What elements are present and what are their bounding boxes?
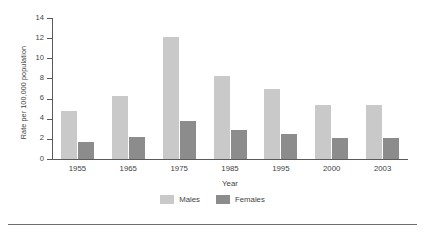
y-axis-title: Rate per 100,000 population [19,18,28,168]
footer-divider [8,224,417,225]
bar-females-1995 [281,134,297,159]
y-axis-tick-label: 12 [36,33,44,42]
bar-males-1965 [112,96,128,159]
y-axis-tick: 8 [47,78,52,79]
y-axis-tick: 10 [47,58,52,59]
x-axis-tick-label: 1965 [120,164,137,173]
x-axis-tick-label: 2000 [323,164,340,173]
y-axis-tick: 14 [47,18,52,19]
bar-group [264,18,297,159]
bar-group [163,18,196,159]
bar-females-1965 [129,137,145,159]
plot-area: 024681012141955196519751985199520002003 [52,18,408,159]
bar-group [61,18,94,159]
bar-group [315,18,348,159]
bar-males-1985 [214,76,230,159]
y-axis-tick-label: 14 [36,13,44,22]
bar-males-2000 [315,105,331,159]
legend-swatch-icon [160,195,174,204]
y-axis-tick: 2 [47,139,52,140]
legend-swatch-icon [216,195,230,204]
bar-males-1955 [61,111,77,159]
x-axis-line [52,159,408,160]
x-axis-tick-label: 1975 [170,164,187,173]
y-axis-line [52,18,53,159]
bar-group [112,18,145,159]
y-axis-tick-label: 8 [40,73,44,82]
bar-chart-figure: Rate per 100,000 population 024681012141… [0,0,425,234]
x-axis-tick-label: 1955 [69,164,86,173]
bar-females-1985 [231,130,247,159]
y-axis-tick: 4 [47,119,52,120]
y-axis-tick: 12 [47,38,52,39]
y-axis-tick-label: 2 [40,133,44,142]
legend-label: Females [235,195,265,204]
bar-males-1975 [163,37,179,159]
y-axis-tick-label: 0 [40,154,44,163]
bar-males-2003 [366,105,382,159]
bar-group [366,18,399,159]
x-axis-tick-label: 2003 [374,164,391,173]
bar-females-2000 [332,138,348,159]
y-axis-tick-label: 4 [40,113,44,122]
chart-legend: MalesFemales [0,195,425,204]
bar-females-2003 [383,138,399,159]
x-axis-title: Year [52,179,408,188]
legend-item-males: Males [160,195,200,204]
bar-females-1955 [78,142,94,159]
bar-group [214,18,247,159]
x-axis-tick-label: 1995 [272,164,289,173]
y-axis-tick-label: 10 [36,53,44,62]
y-axis-tick-label: 6 [40,93,44,102]
legend-label: Males [179,195,200,204]
x-axis-tick-label: 1985 [221,164,238,173]
bar-males-1995 [264,89,280,160]
y-axis-tick: 6 [47,99,52,100]
legend-item-females: Females [216,195,265,204]
y-axis-tick: 0 [47,159,52,160]
bar-females-1975 [180,121,196,159]
